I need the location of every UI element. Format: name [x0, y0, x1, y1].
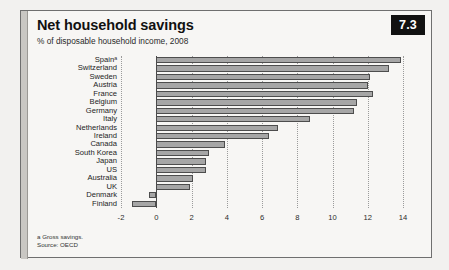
- bar: [156, 133, 269, 139]
- bar: [156, 74, 369, 80]
- x-tick-label: 4: [225, 213, 229, 222]
- bar: [156, 141, 225, 147]
- bar: [156, 82, 368, 88]
- x-tick-label: 8: [295, 213, 299, 222]
- bar-row: Netherlands: [121, 124, 403, 132]
- bar: [156, 65, 389, 71]
- plot-area: -202468101214 SpainᵃSwitzerlandSwedenAus…: [37, 53, 423, 223]
- card-spine: [21, 11, 28, 259]
- x-tick-label: 6: [260, 213, 264, 222]
- footnote-block: a Gross savings. Source: OECD: [37, 233, 83, 249]
- footnote-a: a Gross savings.: [37, 233, 83, 241]
- bar: [156, 184, 189, 190]
- footnote-source: Source: OECD: [37, 241, 83, 249]
- chart-title: Net household savings: [37, 17, 194, 33]
- zero-axis-line: [156, 56, 157, 208]
- x-tick-label: 0: [154, 213, 158, 222]
- bar-row: Japan: [121, 157, 403, 165]
- bar: [156, 175, 193, 181]
- bar: [156, 91, 373, 97]
- bar: [156, 150, 209, 156]
- bar: [156, 116, 309, 122]
- bar-row: South Korea: [121, 149, 403, 157]
- bar-row: US: [121, 166, 403, 174]
- bar: [156, 125, 278, 131]
- bar-row: Denmark: [121, 191, 403, 199]
- bar-row: UK: [121, 183, 403, 191]
- x-tick-label: 2: [189, 213, 193, 222]
- plot-body: -202468101214 SpainᵃSwitzerlandSwedenAus…: [121, 56, 403, 208]
- bar: [156, 167, 205, 173]
- bar-row: Canada: [121, 140, 403, 148]
- x-tick-label: 10: [328, 213, 336, 222]
- bar-row: Ireland: [121, 132, 403, 140]
- bar-row: Spainᵃ: [121, 56, 403, 64]
- bar-row: Germany: [121, 107, 403, 115]
- bar-row: Australia: [121, 174, 403, 182]
- bar: [149, 192, 156, 198]
- bar: [156, 57, 401, 63]
- bar-row: Switzerland: [121, 64, 403, 72]
- bar-row: Belgium: [121, 98, 403, 106]
- bar: [156, 108, 353, 114]
- bar: [156, 158, 205, 164]
- bar-row: France: [121, 90, 403, 98]
- bar-row: Italy: [121, 115, 403, 123]
- figure-number-badge: 7.3: [391, 15, 425, 35]
- bar: [156, 99, 357, 105]
- gridline: [403, 56, 404, 208]
- x-tick-label: 12: [364, 213, 372, 222]
- x-tick-label: 14: [399, 213, 407, 222]
- bar: [132, 201, 157, 207]
- bar-row: Finland: [121, 200, 403, 208]
- chart-subtitle: % of disposable household income, 2008: [37, 36, 188, 46]
- category-label: Finland: [92, 200, 117, 208]
- x-tick-label: -2: [118, 213, 125, 222]
- bar-row: Sweden: [121, 73, 403, 81]
- chart-figure: 7.3 Net household savings % of disposabl…: [0, 0, 449, 270]
- chart-card: 7.3 Net household savings % of disposabl…: [20, 10, 432, 258]
- bar-row: Austria: [121, 81, 403, 89]
